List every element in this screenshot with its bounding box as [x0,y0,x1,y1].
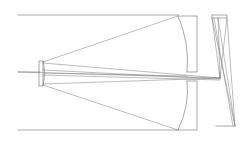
ray [227,18,235,126]
ray [214,18,233,126]
small-lens [39,61,43,86]
optical-diagram [0,0,249,141]
primary-mirror-curve-lower [178,81,188,130]
ray [43,85,178,130]
ray [43,16,178,62]
secondary-element [212,15,227,18]
primary-mirror-curve [178,16,188,72]
